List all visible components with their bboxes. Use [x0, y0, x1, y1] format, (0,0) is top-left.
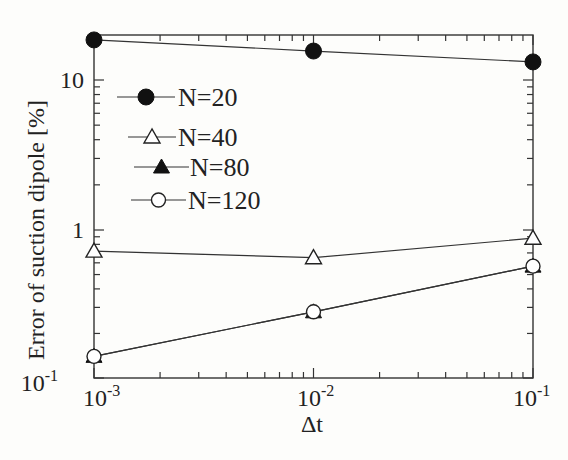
series-n-120: [87, 259, 540, 363]
legend-label: N=80: [190, 153, 249, 182]
x-tick-label-0.1: 10-1: [513, 382, 550, 411]
y-axis-title: Error of suction dipole [%]: [23, 100, 49, 360]
legend-item-n-40: N=40: [128, 123, 237, 152]
y-tick-label-0.1: 10-1: [21, 367, 58, 396]
chart: 10 1 10-1 10-3 10-2 10-1 Δt Error of suc…: [0, 0, 568, 460]
legend-label: N=20: [178, 83, 237, 112]
legend-label: N=120: [188, 186, 260, 215]
series-n-40: [86, 230, 541, 263]
legend: N=20N=40N=80N=120: [117, 83, 260, 215]
legend-item-n-120: N=120: [131, 186, 260, 215]
legend-label: N=40: [178, 123, 237, 152]
x-axis-title: Δt: [301, 411, 323, 437]
legend-item-n-20: N=20: [117, 83, 237, 112]
legend-item-n-80: N=80: [134, 153, 249, 182]
y-tick-label-10: 10: [60, 67, 84, 93]
x-tick-label-0.001: 10-3: [83, 382, 120, 411]
y-tick-label-1: 1: [72, 217, 84, 243]
x-tick-label-0.01: 10-2: [297, 382, 334, 411]
